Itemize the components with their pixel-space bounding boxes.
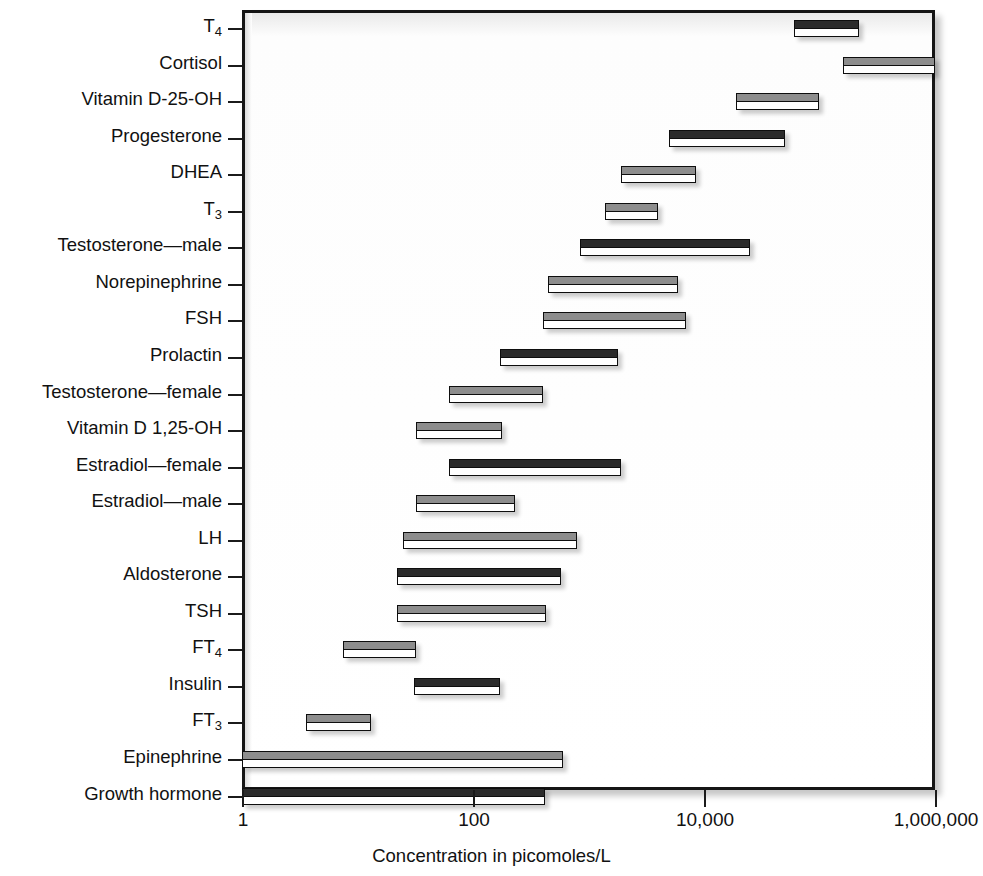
y-axis-tick	[228, 320, 242, 322]
y-axis-label-subscript: 3	[215, 207, 222, 222]
y-axis-tick	[228, 101, 242, 103]
y-axis-tick	[228, 284, 242, 286]
plot-frame	[242, 10, 935, 790]
x-axis-tick	[704, 790, 706, 807]
range-bar	[621, 166, 696, 183]
hormone-concentration-chart: T4CortisolVitamin D-25-OHProgesteroneDHE…	[0, 0, 983, 876]
y-axis-tick	[228, 357, 242, 359]
y-axis-tick	[228, 28, 242, 30]
y-axis-tick	[228, 722, 242, 724]
y-axis-label: FSH	[0, 309, 222, 328]
range-bar-fill	[404, 533, 576, 541]
range-bar	[397, 568, 561, 585]
range-bar-fill	[417, 496, 514, 504]
y-axis-label: Norepinephrine	[0, 273, 222, 292]
range-bar	[500, 349, 618, 366]
y-axis-tick	[228, 576, 242, 578]
y-axis-label: Growth hormone	[0, 785, 222, 804]
y-axis-label: TSH	[0, 602, 222, 621]
range-bar-fill	[549, 277, 677, 285]
y-axis-label: Epinephrine	[0, 748, 222, 767]
range-bar	[794, 20, 859, 37]
y-axis-tick	[228, 613, 242, 615]
y-axis-tick	[228, 540, 242, 542]
range-bar	[580, 239, 750, 256]
y-axis-label: Prolactin	[0, 346, 222, 365]
y-axis-tick	[228, 174, 242, 176]
y-axis-tick	[228, 394, 242, 396]
range-bar	[343, 641, 416, 658]
y-axis-label: DHEA	[0, 163, 222, 182]
range-bar	[403, 532, 577, 549]
y-axis-tick	[228, 467, 242, 469]
range-bar	[736, 93, 819, 110]
range-bar-fill	[398, 606, 545, 614]
x-axis-tick	[935, 790, 937, 807]
range-bar	[449, 386, 543, 403]
x-axis-tick-label: 10,000	[676, 810, 734, 829]
y-axis-label: Testosterone—female	[0, 383, 222, 402]
plot-area	[245, 13, 932, 787]
y-axis-tick	[228, 247, 242, 249]
y-axis-tick	[228, 430, 242, 432]
y-axis-tick	[228, 686, 242, 688]
x-axis-tick-label: 100	[458, 810, 490, 829]
y-axis-label: Aldosterone	[0, 565, 222, 584]
y-axis-label-subscript: 3	[215, 718, 222, 733]
y-axis-tick	[228, 503, 242, 505]
y-axis-label: Progesterone	[0, 127, 222, 146]
range-bar-fill	[670, 131, 784, 139]
y-axis-label-text: FT	[192, 636, 215, 657]
y-axis-label: Cortisol	[0, 54, 222, 73]
y-axis-label: T4	[0, 17, 222, 36]
range-bar-fill	[737, 94, 818, 102]
y-axis-label: Vitamin D-25-OH	[0, 90, 222, 109]
range-bar	[605, 203, 658, 220]
y-axis-tick	[228, 138, 242, 140]
y-axis-label: Estradiol—male	[0, 492, 222, 511]
y-axis-label: FT4	[0, 638, 222, 657]
y-axis-tick	[228, 796, 242, 798]
y-axis-label-text: T	[203, 198, 214, 219]
range-bar-fill	[344, 642, 415, 650]
range-bar	[669, 130, 785, 147]
range-bar	[414, 678, 499, 695]
range-bar-fill	[307, 715, 369, 723]
range-bar-fill	[450, 460, 620, 468]
y-axis-tick	[228, 649, 242, 651]
x-axis-tick	[242, 790, 244, 807]
y-axis-tick	[228, 759, 242, 761]
range-bar-fill	[544, 313, 686, 321]
y-axis-label: Insulin	[0, 675, 222, 694]
x-axis-tick-label: 1	[238, 810, 249, 829]
range-bar-fill	[844, 58, 934, 66]
range-bar	[306, 714, 370, 731]
range-bar-fill	[415, 679, 498, 687]
x-axis-tick	[473, 790, 475, 807]
range-bar	[416, 495, 515, 512]
y-axis-label: T3	[0, 200, 222, 219]
y-axis-label: Vitamin D 1,25-OH	[0, 419, 222, 438]
range-bar-fill	[398, 569, 560, 577]
y-axis-tick	[228, 211, 242, 213]
x-axis-tick-label: 1,000,000	[894, 810, 979, 829]
y-axis-label-column: T4CortisolVitamin D-25-OHProgesteroneDHE…	[0, 0, 222, 790]
y-axis-label: Estradiol—female	[0, 456, 222, 475]
range-bar	[548, 276, 678, 293]
range-bar-fill	[417, 423, 502, 431]
y-axis-label-text: T	[203, 15, 214, 36]
y-axis-tick	[228, 65, 242, 67]
y-axis-label: Testosterone—male	[0, 236, 222, 255]
range-bar	[543, 312, 687, 329]
range-bar	[449, 459, 621, 476]
range-bar	[242, 751, 563, 768]
range-bar-fill	[581, 240, 749, 248]
range-bar-fill	[501, 350, 617, 358]
range-bar-fill	[795, 21, 858, 29]
y-axis-label-subscript: 4	[215, 24, 222, 39]
range-bar-fill	[622, 167, 695, 175]
x-axis: 110010,0001,000,000	[242, 790, 935, 850]
y-axis-label: FT3	[0, 711, 222, 730]
range-bar-fill	[243, 752, 562, 760]
y-axis-label: LH	[0, 529, 222, 548]
